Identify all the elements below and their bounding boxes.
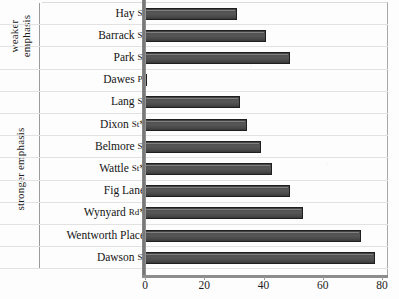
bar-chart: weaker emphasis stronger emphasis Hay St… xyxy=(0,0,399,299)
bar xyxy=(145,252,375,264)
bar-rows: Hay StBarrack StPark StDawes PtLang StDi… xyxy=(0,0,399,277)
category-label: Belmore St xyxy=(95,141,145,153)
bar-track xyxy=(145,119,247,131)
bar-track xyxy=(145,163,272,175)
bar xyxy=(145,119,247,131)
bar xyxy=(145,8,237,20)
table-row: Dawes Pt xyxy=(0,70,388,92)
bar xyxy=(145,163,272,175)
bar-track xyxy=(145,8,237,20)
bar xyxy=(145,185,290,197)
table-row: Belmore St xyxy=(0,136,388,158)
table-row: Wattle St* xyxy=(0,158,388,180)
bar xyxy=(145,230,361,242)
bar-track xyxy=(145,230,361,242)
category-label: Lang St xyxy=(111,97,145,109)
category-label: Dawson St xyxy=(97,252,145,264)
category-label: Dixon St* xyxy=(100,119,145,131)
table-row: Dixon St* xyxy=(0,114,388,136)
category-label: Dawes Pt xyxy=(103,74,145,86)
bar xyxy=(145,30,266,42)
x-axis: 020406080 xyxy=(0,277,399,299)
table-row: Barrack St xyxy=(0,25,388,47)
bar-track xyxy=(145,30,266,42)
category-label: Wattle St* xyxy=(99,163,145,175)
x-tick-label: 80 xyxy=(376,280,388,292)
table-row: Fig Lane xyxy=(0,181,388,203)
x-tick-label: 60 xyxy=(317,280,329,292)
bar-track xyxy=(145,185,290,197)
x-tick-label: 20 xyxy=(199,280,211,292)
category-label: Barrack St xyxy=(98,30,145,42)
table-row: Park St xyxy=(0,47,388,69)
bar-track xyxy=(145,207,303,219)
category-label: Park St xyxy=(114,52,145,64)
bar-track xyxy=(145,52,290,64)
value-axis-line xyxy=(142,0,146,277)
bar-track xyxy=(145,96,240,108)
bar xyxy=(145,52,290,64)
table-row: Hay St xyxy=(0,3,388,25)
bar xyxy=(145,207,303,219)
bar-track xyxy=(145,252,375,264)
category-label: Fig Lane xyxy=(104,185,145,197)
table-row: Wentworth Place xyxy=(0,225,388,247)
category-label: Wentworth Place xyxy=(66,230,145,242)
x-tick-label: 40 xyxy=(258,280,270,292)
bar xyxy=(145,96,240,108)
bar xyxy=(145,141,261,153)
bar-track xyxy=(145,141,261,153)
table-row: Wynyard Rd* xyxy=(0,203,388,225)
category-label: Wynyard Rd* xyxy=(84,208,145,220)
table-row: Lang St xyxy=(0,92,388,114)
x-tick-label: 0 xyxy=(142,280,148,292)
table-row: Dawson St xyxy=(0,247,388,269)
category-label: Hay St xyxy=(115,8,145,20)
